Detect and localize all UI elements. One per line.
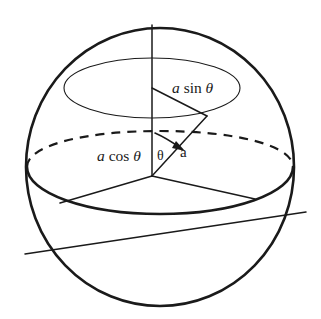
equatorial-radius-line-left: [60, 176, 152, 203]
label-theta: θ: [157, 148, 164, 163]
oblique-axis-line: [25, 212, 306, 254]
label-a: a: [180, 144, 187, 160]
label-a-cos-theta-theta: θ: [133, 147, 141, 164]
label-a-sin-theta-fn: sin: [184, 79, 202, 96]
label-a-cos-theta-fn: cos: [109, 147, 130, 164]
label-a-sin-theta-theta: θ: [206, 79, 214, 96]
equatorial-radius-line-right: [152, 176, 255, 199]
figure-canvas: a sin θ a cos θ θ a: [0, 0, 321, 319]
label-a-cos-theta: a cos θ: [97, 147, 141, 164]
equator-front-arc: [27, 167, 293, 214]
sphere-diagram: a sin θ a cos θ θ a: [0, 0, 321, 319]
label-a-sin-theta: a sin θ: [172, 79, 214, 96]
